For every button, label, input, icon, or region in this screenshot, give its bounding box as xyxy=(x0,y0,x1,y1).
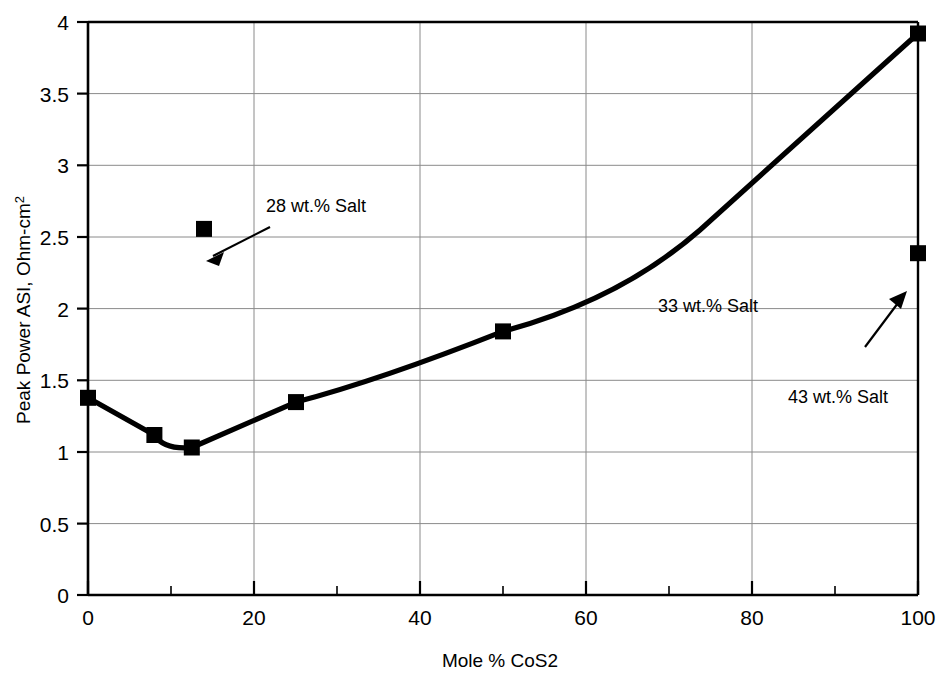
data-point-13.5-2.29[interactable] xyxy=(196,221,212,237)
ytick-label-1.5: 1.5 xyxy=(40,369,69,392)
ytick-label-4: 4 xyxy=(57,11,69,34)
xtick-label-60: 60 xyxy=(574,606,597,629)
data-point-8-1.13[interactable] xyxy=(146,427,162,443)
annotation-43-wt-salt-label: 43 wt.% Salt xyxy=(788,387,888,407)
y-axis-ticks xyxy=(77,22,88,595)
ytick-label-3: 3 xyxy=(57,154,69,177)
ytick-label-2: 2 xyxy=(57,298,69,321)
data-point-12.5-1.03[interactable] xyxy=(184,440,200,456)
ytick-label-0.5: 0.5 xyxy=(40,513,69,536)
data-point-100-2.26[interactable] xyxy=(910,245,926,261)
y-axis-title-group: Peak Power ASI, Ohm-cm2 xyxy=(12,196,34,424)
annotation-33-wt-salt: 33 wt.% Salt xyxy=(658,296,758,316)
data-point-0-1.39[interactable] xyxy=(80,390,96,406)
y-axis-title-superscript: 2 xyxy=(12,196,27,203)
ytick-label-1: 1 xyxy=(57,441,69,464)
xtick-label-100: 100 xyxy=(900,606,935,629)
y-axis-title: Peak Power ASI, Ohm-cm xyxy=(13,203,34,424)
svg-text:Peak Power ASI, Ohm-cm2: Peak Power ASI, Ohm-cm2 xyxy=(12,196,34,424)
data-point-50-1.84[interactable] xyxy=(495,323,511,339)
peak-power-asi-vs-mole-percent-cos2-chart: 4 3.5 3 2.5 2 1.5 1 0.5 0 xyxy=(0,0,948,679)
chart-container: 4 3.5 3 2.5 2 1.5 1 0.5 0 xyxy=(0,0,948,679)
data-point-25-1.35[interactable] xyxy=(288,394,304,410)
x-axis-title: Mole % CoS2 xyxy=(442,650,558,671)
xtick-label-40: 40 xyxy=(408,606,431,629)
y-axis-tick-labels: 4 3.5 3 2.5 2 1.5 1 0.5 0 xyxy=(40,11,70,607)
ytick-label-0: 0 xyxy=(57,584,69,607)
ytick-label-3.5: 3.5 xyxy=(40,83,69,106)
annotation-33-wt-salt-label: 33 wt.% Salt xyxy=(658,296,758,316)
annotation-28-wt-salt-label: 28 wt.% Salt xyxy=(266,196,366,216)
data-point-100-3.92[interactable] xyxy=(910,26,926,42)
xtick-label-0: 0 xyxy=(82,606,94,629)
x-axis-tick-labels: 0 20 40 60 80 100 xyxy=(82,606,935,629)
ytick-label-2.5: 2.5 xyxy=(40,226,69,249)
xtick-label-20: 20 xyxy=(242,606,265,629)
xtick-label-80: 80 xyxy=(740,606,763,629)
